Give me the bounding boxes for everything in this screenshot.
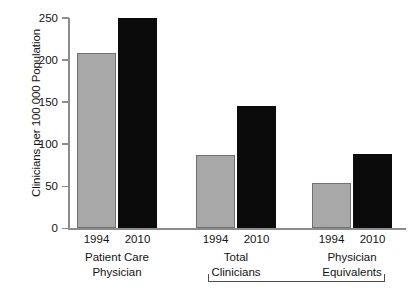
bar-total-clinicians-1994 bbox=[196, 155, 235, 228]
y-tick-label: 200 bbox=[18, 54, 58, 66]
bar-physician-equivalents-1994 bbox=[312, 183, 351, 228]
group-label-line1: Physician bbox=[327, 251, 376, 263]
bar-total-clinicians-2010 bbox=[237, 106, 276, 228]
bar-chart: Clinicians per 100 000 Population 050100… bbox=[0, 0, 416, 290]
bar-patient-care-physician-2010 bbox=[118, 18, 157, 228]
x-axis-line bbox=[68, 228, 406, 230]
y-tick-label: 50 bbox=[18, 180, 58, 192]
y-tick-mark bbox=[62, 59, 69, 61]
bar-physician-equivalents-2010 bbox=[353, 154, 392, 228]
y-tick-mark bbox=[62, 17, 69, 19]
year-label-total-clinicians-2010: 2010 bbox=[227, 233, 287, 245]
y-tick-mark bbox=[62, 101, 69, 103]
y-tick-label: 0 bbox=[18, 222, 58, 234]
group-label-line1: Patient Care bbox=[85, 251, 149, 263]
y-tick-mark bbox=[62, 186, 69, 188]
group-bracket bbox=[208, 274, 385, 282]
bar-patient-care-physician-1994 bbox=[77, 53, 116, 229]
y-tick-label: 100 bbox=[18, 138, 58, 150]
y-tick-mark bbox=[62, 143, 69, 145]
year-label-patient-care-physician-2010: 2010 bbox=[108, 233, 168, 245]
y-axis-line bbox=[68, 18, 70, 229]
y-tick-mark bbox=[62, 228, 69, 230]
group-label-line1: Total bbox=[224, 251, 248, 263]
y-tick-label: 150 bbox=[18, 96, 58, 108]
year-label-physician-equivalents-2010: 2010 bbox=[343, 233, 403, 245]
y-tick-label: 250 bbox=[18, 12, 58, 24]
